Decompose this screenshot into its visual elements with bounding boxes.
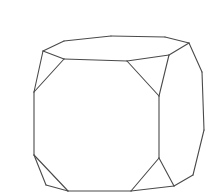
edge-G-K: [127, 61, 159, 96]
edge-D-E: [165, 37, 189, 43]
edge-J-R: [34, 155, 68, 191]
edge-S-P: [131, 186, 174, 191]
edge-L-P: [159, 158, 174, 186]
edge-F-I: [34, 59, 64, 92]
edge-A-B: [43, 41, 64, 51]
truncated-cube-drawing: [0, 0, 218, 193]
edge-H-E: [169, 43, 189, 55]
edge-N-O: [193, 130, 204, 175]
edge-B-C: [64, 36, 111, 41]
edge-O-P: [174, 175, 193, 186]
edge-E-M: [189, 43, 202, 72]
edge-A-F: [43, 51, 64, 59]
edge-G-H: [127, 55, 169, 61]
diagram-canvas: [0, 0, 218, 193]
edge-M-N: [202, 72, 204, 130]
edge-J-Q: [34, 155, 46, 185]
edge-S-L: [131, 158, 159, 191]
edge-H-K: [159, 55, 169, 96]
edge-F-G: [64, 59, 127, 61]
edge-C-D: [111, 36, 165, 37]
edge-A-I: [34, 51, 43, 92]
